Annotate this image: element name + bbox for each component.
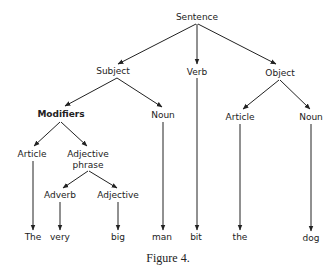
word-the-2: the [233,232,248,242]
edge-object-article [243,80,279,109]
node-verb: Verb [187,67,208,77]
edge-subject-modifiers [65,78,117,106]
parse-tree-diagram: Sentence Subject Verb Object Modifiers N… [0,0,336,278]
word-bit: bit [190,232,202,242]
node-object: Object [265,68,295,78]
node-modifier-article: Article [18,149,47,159]
node-adjective-phrase-line1: Adjective [67,149,109,159]
node-modifiers: Modifiers [37,109,84,119]
word-dog: dog [303,233,320,243]
word-big: big [111,232,125,242]
edge-modifiers-adjphrase [61,122,87,146]
edge-modifiers-article [34,122,60,146]
word-very: very [50,232,71,242]
edge-sentence-object [198,24,276,64]
node-adjective-phrase-line2: phrase [73,160,104,170]
edge-object-noun [280,80,310,109]
node-sentence: Sentence [176,12,219,22]
node-object-noun: Noun [299,112,323,122]
edge-sentence-subject [118,24,196,64]
node-adverb: Adverb [44,190,76,200]
node-adjective: Adjective [97,190,139,200]
node-subject-noun: Noun [151,110,175,120]
node-object-article: Article [226,112,255,122]
nodes: Sentence Subject Verb Object Modifiers N… [18,12,323,243]
word-the: The [24,232,42,242]
word-man: man [152,232,172,242]
edge-adjphrase-adjective [89,171,117,188]
edge-adjphrase-adverb [63,171,88,188]
figure-caption: Figure 4. [146,251,189,265]
edge-subject-noun [117,78,162,107]
node-subject: Subject [96,66,130,76]
